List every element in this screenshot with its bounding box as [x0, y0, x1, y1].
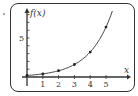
y-axis-arrow — [25, 8, 30, 13]
x-axis-arrow — [127, 75, 131, 80]
x-tick-label: 2 — [56, 80, 61, 89]
x-tick-label: 3 — [72, 80, 77, 89]
data-point — [89, 51, 92, 54]
series-curve — [27, 11, 112, 75]
x-tick-label: 5 — [103, 80, 108, 89]
chart: 123455 f(x) x — [0, 0, 138, 96]
data-point — [105, 26, 108, 29]
x-tick-label: 4 — [88, 80, 93, 89]
x-tick-label: 1 — [40, 80, 45, 89]
data-point — [57, 69, 60, 72]
y-tick-label: 5 — [19, 34, 24, 43]
data-point — [26, 74, 29, 77]
data-points — [26, 26, 108, 77]
y-axis-label: f(x) — [29, 8, 46, 18]
data-point — [73, 63, 76, 66]
ticks: 123455 — [19, 15, 109, 89]
x-axis-label: x — [124, 65, 129, 75]
data-point — [41, 72, 44, 75]
